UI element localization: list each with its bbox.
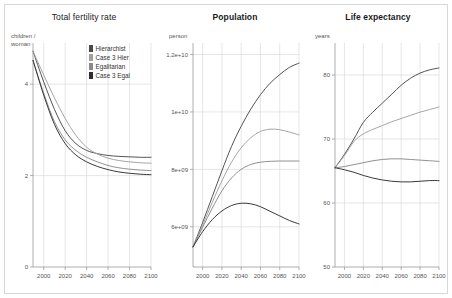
legend-item: Hierarchist	[89, 44, 130, 53]
chart-panel-population: Population person 6e+098e+091e+101.2e+10…	[163, 5, 307, 295]
legend-label: Case 3 Egal	[96, 71, 130, 80]
series-line	[335, 168, 439, 182]
chart-panel-life-expectancy: Life expectancy years 506070802000202020…	[307, 5, 449, 295]
x-tick-label: 2000	[37, 273, 51, 279]
series-line	[335, 68, 439, 168]
legend: HierarchistCase 3 HierEgalitarianCase 3 …	[89, 44, 130, 80]
legend-label: Hierarchist	[96, 44, 126, 53]
x-tick-label: 2000	[196, 273, 210, 279]
x-tick-label: 2060	[254, 273, 268, 279]
y-tick-label: 6e+09	[171, 224, 189, 230]
y-tick-label: 60	[323, 200, 330, 206]
y-tick-label: 4	[25, 81, 29, 87]
y-tick-label: 2	[25, 173, 29, 179]
x-tick-label: 2100	[144, 273, 158, 279]
legend-swatch-icon	[89, 63, 93, 70]
figure-frame: Total fertility rate children / woman 02…	[4, 4, 448, 294]
y-tick-label: 1.2e+10	[166, 52, 189, 58]
legend-swatch-icon	[89, 72, 93, 79]
x-tick-label: 2100	[292, 273, 306, 279]
x-tick-label: 2100	[432, 273, 446, 279]
x-tick-label: 2020	[59, 273, 73, 279]
legend-label: Egalitarian	[96, 62, 126, 71]
legend-swatch-icon	[89, 45, 93, 52]
chart-panel-fertility: Total fertility rate children / woman 02…	[5, 5, 163, 295]
series-line	[335, 159, 439, 168]
y-axis-label-fertility: children / woman	[11, 33, 35, 48]
x-tick-label: 2020	[357, 273, 371, 279]
legend-item: Egalitarian	[89, 62, 130, 71]
y-axis-label-population: person	[169, 33, 187, 41]
y-tick-label: 80	[323, 72, 330, 78]
legend-item: Case 3 Hier	[89, 53, 130, 62]
plot-area-life-expectancy: 50607080200020202040206020802100	[335, 41, 439, 265]
chart-title-population: Population	[163, 12, 307, 22]
x-tick-label: 2000	[338, 273, 352, 279]
chart-title-life-expectancy: Life expectancy	[307, 12, 449, 22]
x-tick-label: 2020	[215, 273, 229, 279]
x-tick-label: 2040	[235, 273, 249, 279]
x-tick-label: 2080	[273, 273, 287, 279]
y-tick-label: 50	[323, 264, 330, 270]
y-tick-label: 70	[323, 136, 330, 142]
x-tick-label: 2080	[413, 273, 427, 279]
x-tick-label: 2060	[101, 273, 115, 279]
x-tick-label: 2040	[376, 273, 390, 279]
y-tick-label: 0	[25, 264, 29, 270]
y-tick-label: 8e+09	[171, 167, 189, 173]
plot-area-population: 6e+098e+091e+101.2e+10200020202040206020…	[193, 41, 299, 265]
legend-item: Case 3 Egal	[89, 71, 130, 80]
y-tick-label: 1e+10	[171, 109, 189, 115]
x-tick-label: 2080	[123, 273, 137, 279]
x-tick-label: 2040	[80, 273, 94, 279]
legend-label: Case 3 Hier	[96, 53, 129, 62]
x-tick-label: 2060	[395, 273, 409, 279]
chart-title-fertility: Total fertility rate	[5, 12, 163, 22]
y-axis-label-life-expectancy: years	[315, 33, 330, 41]
series-line	[193, 129, 299, 247]
legend-swatch-icon	[89, 54, 93, 61]
series-line	[193, 63, 299, 247]
series-line	[193, 161, 299, 247]
